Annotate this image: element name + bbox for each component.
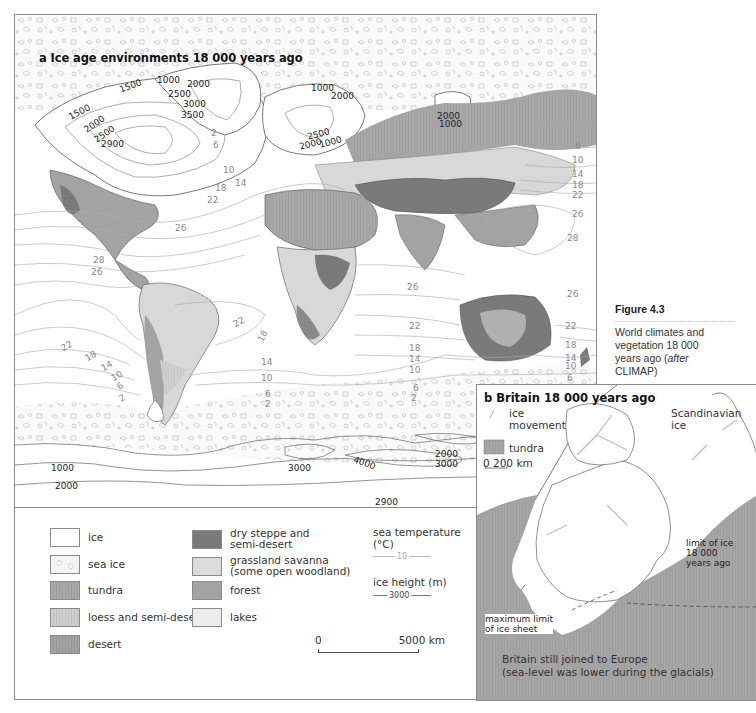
legend-item-dry-steppe: dry steppe andsemi-desert	[192, 528, 309, 550]
legend-item-desert: desert	[50, 635, 122, 654]
sea-temp-label: 26	[567, 289, 578, 299]
ice-label: 3500	[181, 110, 204, 120]
sea-temp-label: 2	[265, 399, 271, 409]
britain-joined-note: Britain still joined to Europe (sea-leve…	[502, 653, 714, 679]
sea-temp-label: 6	[567, 373, 573, 383]
ice-label: 1000	[439, 119, 462, 129]
ice-label: 1000	[51, 463, 74, 473]
sea-ice-swatch	[50, 555, 80, 574]
figure-description: World climates and vegetation 18 000 yea…	[615, 326, 735, 378]
tundra-swatch	[50, 581, 80, 600]
legend-item-tundra: tundra	[50, 581, 123, 600]
lakes-swatch	[192, 608, 222, 627]
sea-temp-label: 26	[407, 282, 418, 292]
sea-temp-label: 10	[409, 365, 420, 375]
ice-height-sample-line: 3000	[373, 590, 431, 602]
figure-caption: Figure 4.3 World climates and vegetation…	[615, 303, 735, 378]
ice-label: 3000	[288, 463, 311, 473]
ice-swatch	[50, 528, 80, 547]
ice-label: 2500	[168, 89, 191, 99]
figure-number: Figure 4.3	[615, 303, 735, 322]
loess-swatch	[50, 608, 80, 627]
legend-item-sea-ice: sea ice	[50, 555, 125, 574]
ice-label: 2000	[331, 91, 354, 101]
legend-item-lakes: lakes	[192, 608, 257, 627]
sea-temp-label: 28	[567, 233, 578, 243]
sea-temp-label: 10	[565, 361, 576, 371]
scandinavian-ice-label: Scandinavian ice	[671, 407, 741, 431]
sea-temp-label: 26	[175, 223, 186, 233]
sea-temp-label: 14	[235, 178, 246, 188]
maximum-limit-label: maximum limit of ice sheet	[485, 614, 553, 634]
sea-temp-label: 2	[411, 393, 417, 403]
sea-temp-label: 14	[409, 354, 420, 364]
limit-of-ice-label: limit of ice 18 000 years ago	[686, 538, 733, 568]
legend-item-forest: forest	[192, 581, 260, 600]
sea-temp-label: 18	[409, 343, 420, 353]
forest-swatch	[192, 581, 222, 600]
ice-movement-legend: ice movement	[509, 407, 566, 431]
sea-temp-label: 18	[215, 183, 226, 193]
sea-temp-label: 6	[575, 141, 581, 151]
legend-item-ice: ice	[50, 528, 103, 547]
sea-temp-label: 26	[91, 267, 102, 277]
grassland-swatch	[192, 557, 222, 576]
ice-label: 3000	[183, 99, 206, 109]
scale-end: 200 km	[493, 457, 533, 469]
panel-b-britain-map: b Britain 18 000 years ago ice movement …	[476, 384, 756, 701]
sea-temp-label: 6	[213, 140, 219, 150]
ice-label: 2000	[55, 481, 78, 491]
sea-temp-label: 10	[572, 155, 583, 165]
desert-swatch	[50, 635, 80, 654]
ice-label: 2900	[101, 139, 124, 149]
sea-temp-label: 2	[211, 128, 217, 138]
sea-temp-label: 18	[572, 180, 583, 190]
dry-steppe-swatch	[192, 530, 222, 549]
ice-label: 2000	[435, 449, 458, 459]
ice-height-key: ice height (m) 3000	[373, 576, 447, 602]
ice-label: 1000	[157, 75, 180, 85]
sea-temp-label: 28	[93, 255, 104, 265]
tundra-legend: tundra	[509, 442, 544, 454]
sea-temp-label: 14	[261, 357, 272, 367]
ice-label: 3000	[435, 459, 458, 469]
sea-temp-label: 22	[565, 321, 576, 331]
sea-temp-label: 6	[413, 383, 419, 393]
panel-b-title: b Britain 18 000 years ago	[484, 391, 656, 405]
legend-item-grassland: grassland savanna(some open woodland)	[192, 555, 350, 577]
legend-item-loess: loess and semi-desert	[50, 608, 204, 627]
sea-temp-label: 22	[409, 321, 420, 331]
sea-temperature-key: sea temperature (°C) 10	[373, 526, 461, 562]
scale-start: 0	[483, 457, 490, 469]
ice-label: 2000	[187, 79, 210, 89]
sea-temp-label: 14	[572, 169, 583, 179]
sea-temp-label: 6	[265, 389, 271, 399]
sea-temp-label: 18	[565, 340, 576, 350]
scale-bar: 0 5000 km	[315, 634, 445, 656]
panel-a-title: a Ice age environments 18 000 years ago	[39, 51, 303, 65]
sea-temp-label: 22	[207, 195, 218, 205]
sea-temp-label: 10	[261, 373, 272, 383]
sea-temperature-sample-line: 10	[373, 552, 431, 562]
sea-temp-label: 26	[572, 209, 583, 219]
sea-temp-label: 22	[572, 190, 583, 200]
ice-label: 2900	[375, 497, 398, 507]
sea-temp-label: 10	[223, 165, 234, 175]
